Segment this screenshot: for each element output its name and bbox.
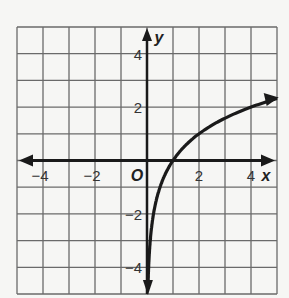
- y-axis-up-arrow-icon: [142, 28, 152, 41]
- function-curve: [143, 93, 279, 295]
- x-tick-label: 4: [247, 167, 255, 184]
- origin-label: O: [131, 167, 144, 184]
- log-curve: [148, 99, 277, 290]
- x-axis-left-arrow-icon: [19, 155, 33, 167]
- x-tick-label: −2: [83, 167, 100, 184]
- y-tick-label: 2: [134, 99, 142, 116]
- x-axis-label: x: [261, 167, 272, 184]
- graph-plot: −4−22442−2−4Oxy: [0, 0, 289, 298]
- y-tick-label: 4: [134, 46, 142, 63]
- curve-start-arrow-icon: [143, 280, 153, 295]
- axes: [19, 28, 275, 294]
- y-axis-label: y: [154, 29, 165, 46]
- x-tick-label: 2: [195, 167, 203, 184]
- x-axis-right-arrow-icon: [261, 155, 275, 167]
- y-tick-label: −4: [125, 259, 142, 276]
- y-tick-label: −2: [125, 206, 142, 223]
- x-tick-label: −4: [31, 167, 48, 184]
